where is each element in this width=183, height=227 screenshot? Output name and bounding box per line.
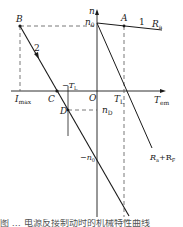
label-curve-2: 2 [34, 43, 40, 53]
axis-label-n: n [89, 6, 95, 16]
label-imax: Imax [14, 94, 32, 105]
label-curve-1: 1 [139, 17, 145, 27]
motor-characteristic-diagram: n n0 A 1 Ra B 2 −TL Imax C O TL Tem D nD… [0, 0, 183, 227]
label-b: B [15, 14, 23, 24]
label-a: A [120, 13, 128, 23]
point-b [18, 24, 21, 27]
y-axis-arrow-icon [95, 9, 99, 15]
label-ra: Ra [151, 19, 163, 30]
diagram-svg: n n0 A 1 Ra B 2 −TL Imax C O TL Tem D nD… [0, 0, 183, 227]
label-c: C [48, 94, 55, 104]
point-a [123, 25, 126, 28]
figure-caption: 图 … 电源反接制动时的机械特性曲线 [0, 219, 183, 227]
label-neg-n0: −n0 [80, 153, 95, 163]
label-d: D [59, 106, 67, 116]
point-c [55, 89, 58, 92]
axes [11, 9, 166, 217]
curve-ra-rf [97, 23, 152, 148]
curve-2-arrow-icon [34, 52, 39, 59]
x-axis-arrow-icon [160, 89, 166, 93]
axis-label-tem: Tem [154, 95, 170, 106]
label-n0: n0 [85, 17, 95, 28]
label-origin: O [89, 93, 97, 103]
label-tl: TL [114, 94, 124, 105]
label-neg-tl: −TL [62, 81, 78, 91]
label-ra-rf: Ra+RF [149, 153, 176, 163]
label-nd: nD [102, 105, 113, 116]
